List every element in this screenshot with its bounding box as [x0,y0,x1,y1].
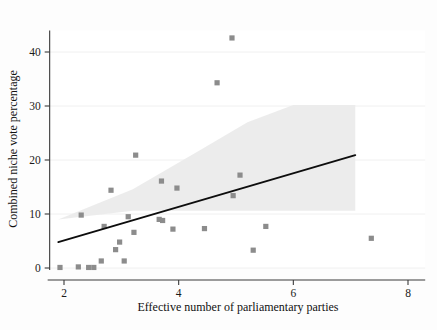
data-point-24 [251,248,256,253]
data-point-25 [263,224,268,229]
x-tick-label-2: 2 [61,287,67,299]
data-point-7 [108,188,113,193]
y-tick-label-10: 10 [29,208,41,220]
data-point-2 [79,212,84,217]
data-point-9 [117,239,122,244]
scatter-plot-figure: 2468 010203040 Effective number of parli… [0,0,437,330]
x-tick-label-4: 4 [176,287,182,299]
data-point-21 [229,35,234,40]
data-point-10 [122,258,127,263]
data-point-3 [86,265,91,270]
y-tick-label-40: 40 [29,46,41,58]
data-point-0 [57,265,62,270]
data-point-18 [174,185,179,190]
y-tick-label-30: 30 [29,100,41,112]
y-tick-label-0: 0 [35,262,41,274]
data-point-1 [76,264,81,269]
y-tick-label-20: 20 [29,154,41,166]
data-point-4 [91,265,96,270]
data-point-26 [369,236,374,241]
data-point-22 [231,193,236,198]
x-axis-title: Effective number of parliamentary partie… [137,300,338,314]
data-point-23 [237,173,242,178]
data-point-19 [202,226,207,231]
x-tick-label-6: 6 [290,287,296,299]
data-point-15 [160,218,165,223]
data-point-17 [170,227,175,232]
data-point-12 [131,230,136,235]
data-point-11 [126,214,131,219]
x-tick-label-8: 8 [405,287,411,299]
data-point-13 [133,153,138,158]
data-point-20 [214,80,219,85]
data-point-8 [113,247,118,252]
data-point-16 [159,178,164,183]
y-axis-title: Combined niche vote percentage [6,70,20,228]
data-point-5 [99,258,104,263]
plot-canvas: 2468 010203040 Effective number of parli… [0,0,437,330]
